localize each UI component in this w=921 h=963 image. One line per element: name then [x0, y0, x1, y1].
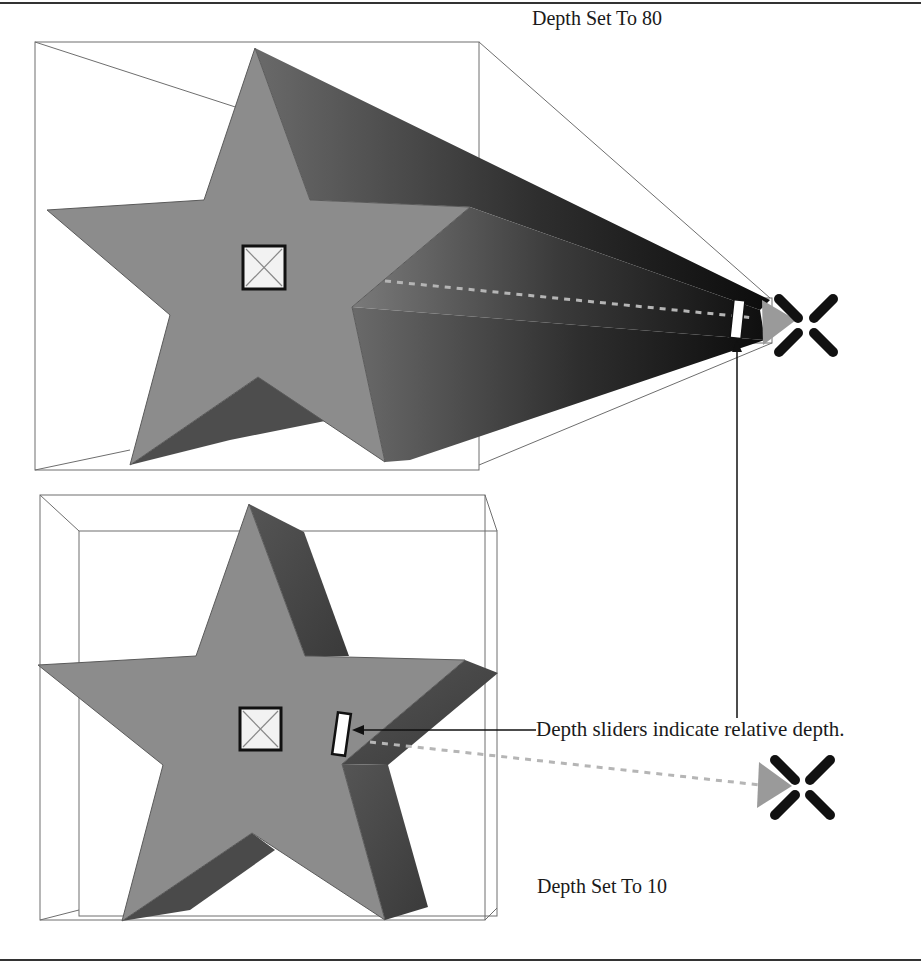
bottom-panel-label: Depth Set To 10: [537, 876, 667, 896]
top-panel: [35, 42, 833, 718]
depth-slider-callout: Depth sliders indicate relative depth.: [536, 719, 844, 740]
bottom-box-edge: [40, 910, 79, 920]
bottom-box-edge: [485, 908, 497, 920]
bottom-box-edge: [485, 495, 497, 531]
bottom-center-handle-icon[interactable]: [240, 708, 281, 750]
top-box-edge: [35, 450, 130, 470]
top-box-edge: [35, 42, 260, 115]
bottom-box-edge: [40, 495, 79, 531]
top-panel-label: Depth Set To 80: [532, 8, 662, 28]
figure-canvas: Depth Set To 80 Depth Set To 10 Depth sl…: [0, 0, 921, 963]
bottom-depth-guide-dotted: [370, 742, 760, 785]
bottom-panel: [38, 495, 830, 921]
top-center-handle-icon[interactable]: [243, 246, 285, 289]
